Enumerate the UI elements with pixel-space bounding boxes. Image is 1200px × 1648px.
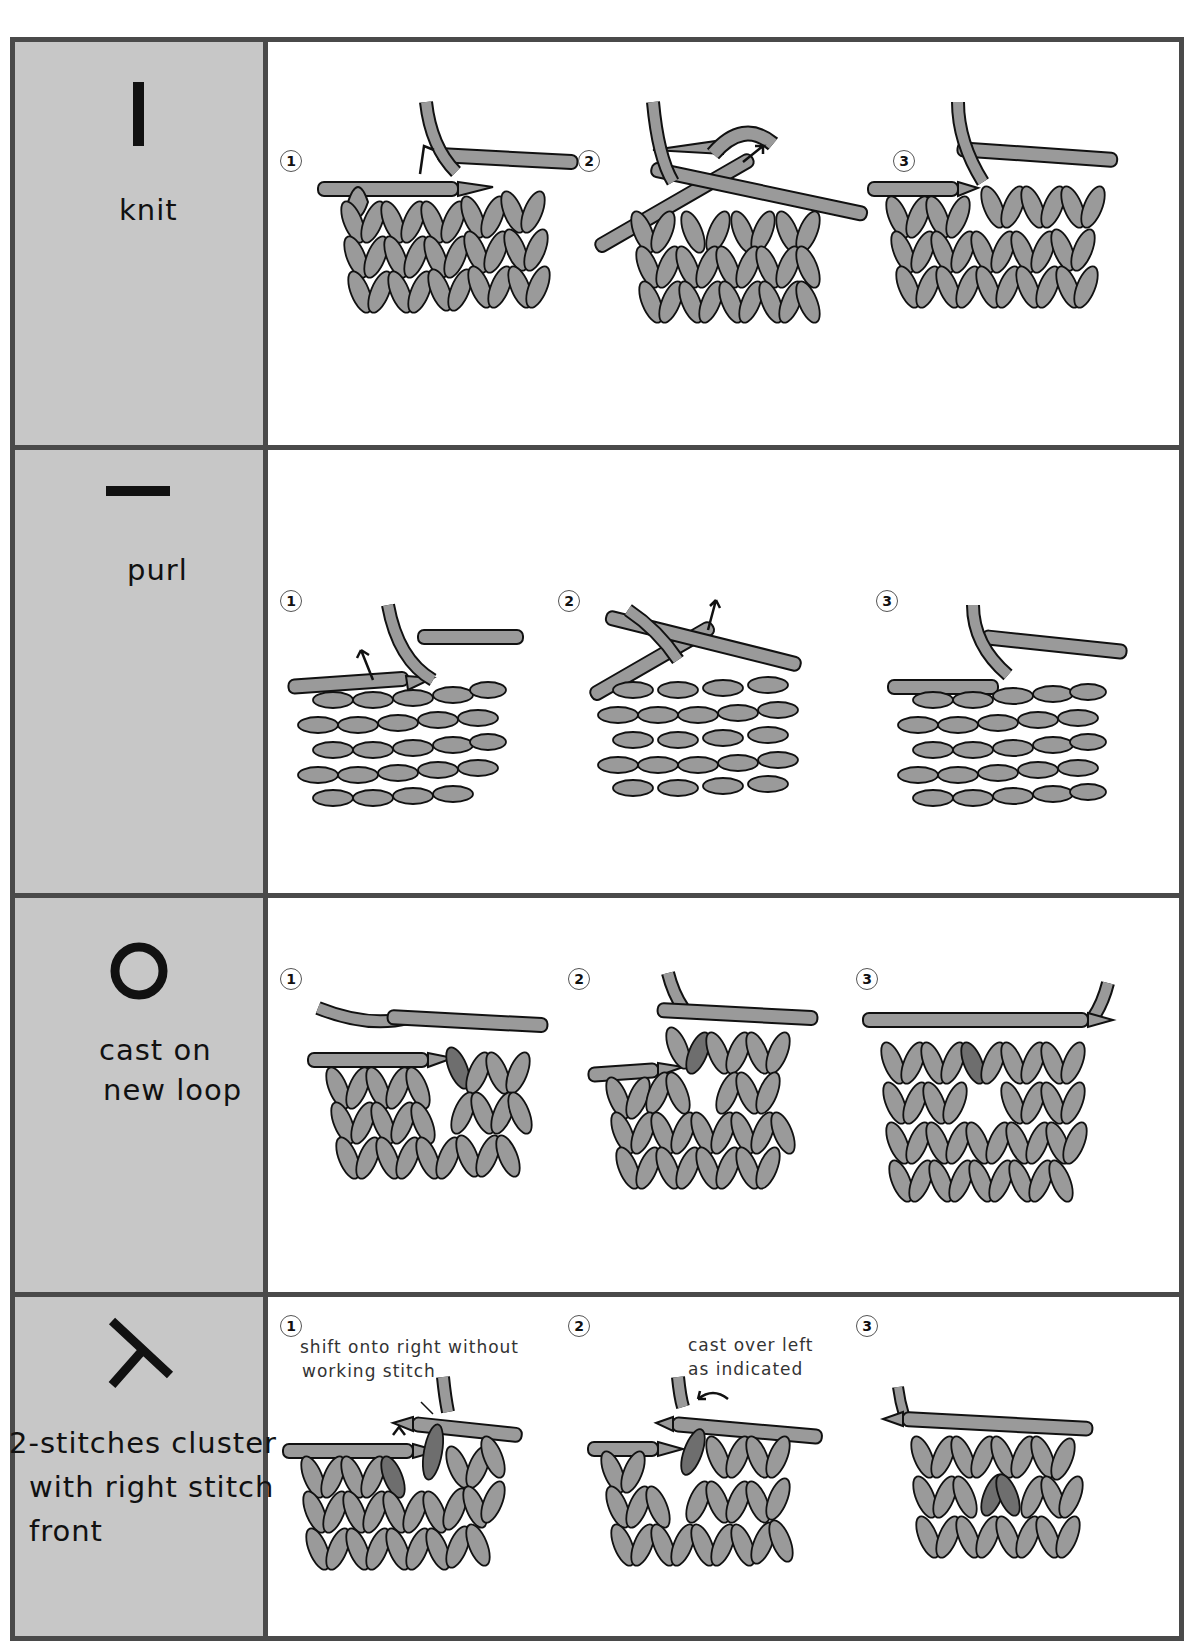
stitch-label-cast-on-line2: new loop <box>103 1070 242 1110</box>
stitch-label-purl: purl <box>127 550 188 590</box>
step-number-badge: 3 <box>856 1315 878 1337</box>
symbol-cell-purl: purl <box>15 450 268 893</box>
steps-cluster: 1 shift onto right without working stitc… <box>268 1297 1179 1636</box>
row-2-stitches-cluster: 2-stitches cluster with right stitch fro… <box>15 1297 1179 1636</box>
symbol-cell-cast-on: cast on new loop <box>15 898 268 1292</box>
stitch-label-cluster-line2: with right stitch <box>29 1467 274 1507</box>
step-number-badge: 1 <box>280 150 302 172</box>
steps-purl: 1 2 <box>268 450 1179 893</box>
stitch-label-cast-on-line1: cast on <box>99 1030 212 1070</box>
symbol-cell-knit: knit <box>15 42 268 445</box>
cluster-step-2-illustration <box>588 1377 848 1597</box>
purl-symbol-icon <box>15 486 263 498</box>
cast-on-circle-symbol-icon <box>15 942 263 1000</box>
stitch-label-cluster-line3: front <box>29 1511 103 1551</box>
step-cluster-2-note-line1: cast over left <box>688 1333 814 1357</box>
purl-bumps <box>298 682 506 806</box>
knit-step-1-illustration <box>308 102 588 332</box>
step-number-badge: 2 <box>568 968 590 990</box>
step-number-badge: 1 <box>280 968 302 990</box>
purl-step-2-illustration <box>588 570 828 830</box>
row-cast-on-new-loop: cast on new loop 1 <box>15 898 1179 1297</box>
knit-step-3-illustration <box>868 102 1138 332</box>
stitch-symbol-chart: knit 1 <box>10 37 1184 1641</box>
cluster-right-front-symbol-icon <box>15 1319 263 1389</box>
knit-symbol-icon <box>15 82 263 148</box>
cast-on-step-2-illustration <box>588 973 838 1213</box>
purl-step-3-illustration <box>888 600 1128 830</box>
knit-step-2-illustration <box>593 102 873 352</box>
cluster-step-3-illustration <box>883 1387 1123 1597</box>
symbol-cell-cluster: 2-stitches cluster with right stitch fro… <box>15 1297 268 1636</box>
step-number-badge: 1 <box>280 1315 302 1337</box>
cast-on-step-3-illustration <box>863 983 1123 1223</box>
steps-knit: 1 <box>268 42 1179 445</box>
purl-step-1-illustration <box>288 600 528 830</box>
cluster-step-1-illustration <box>283 1377 543 1597</box>
row-purl: purl 1 <box>15 450 1179 898</box>
step-number-badge: 2 <box>558 590 580 612</box>
cast-on-step-1-illustration <box>308 998 558 1218</box>
step-number-badge: 2 <box>568 1315 590 1337</box>
step-cluster-1-note-line1: shift onto right without <box>300 1335 519 1359</box>
steps-cast-on: 1 <box>268 898 1179 1292</box>
stitch-label-knit: knit <box>119 190 178 230</box>
stitch-label-cluster-line1: 2-stitches cluster <box>9 1423 277 1463</box>
row-knit: knit 1 <box>15 42 1179 450</box>
